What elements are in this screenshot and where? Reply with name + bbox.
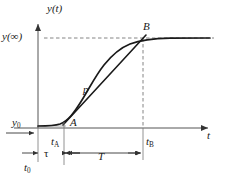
point-p-label: p <box>83 84 89 95</box>
time-mark-t0: t0 <box>24 162 31 175</box>
x-axis-label: t <box>207 130 210 141</box>
figure-canvas <box>0 0 236 177</box>
tangent-line <box>63 35 146 125</box>
response-curve <box>38 38 210 126</box>
point-b-label: B <box>143 21 150 32</box>
y-axis-label: y(t) <box>47 3 62 14</box>
time-mark-tb-subscript: B <box>149 141 154 149</box>
interval-T-label: T <box>98 151 104 162</box>
step-response-figure: y(t) y(∞) y0 t0 tA tB τ T A p B t <box>0 0 236 177</box>
time-mark-tb: tB <box>146 136 154 149</box>
time-mark-t0-subscript: 0 <box>27 167 31 175</box>
time-mark-ta-subscript: A <box>54 141 59 149</box>
time-mark-ta: tA <box>51 136 59 149</box>
initial-value-label: y0 <box>12 117 21 130</box>
steady-state-label: y(∞) <box>2 31 22 42</box>
interval-tau-label: τ <box>44 148 48 159</box>
initial-value-subscript: 0 <box>17 122 21 130</box>
point-a-label: A <box>70 117 77 128</box>
